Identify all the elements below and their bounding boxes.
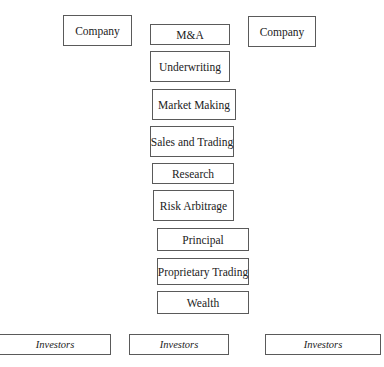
function-label-underwriting: Underwriting: [159, 61, 221, 73]
investors-box-center: Investors: [129, 334, 229, 355]
company-left-label: Company: [75, 25, 120, 37]
function-box-underwriting: Underwriting: [150, 51, 230, 82]
function-box-ma: M&A: [150, 24, 230, 45]
function-box-research: Research: [152, 163, 234, 184]
company-right-label: Company: [260, 26, 305, 38]
function-label-sales-and-trading: Sales and Trading: [151, 136, 233, 148]
function-box-principal: Principal: [157, 228, 249, 251]
function-label-ma: M&A: [176, 29, 203, 41]
function-box-risk-arbitrage: Risk Arbitrage: [153, 190, 234, 221]
function-box-market-making: Market Making: [152, 89, 236, 120]
function-label-principal: Principal: [182, 234, 224, 246]
investors-label-left: Investors: [36, 339, 75, 350]
company-right-box: Company: [248, 16, 316, 47]
function-label-market-making: Market Making: [158, 99, 230, 111]
function-label-risk-arbitrage: Risk Arbitrage: [160, 200, 227, 212]
function-box-wealth: Wealth: [157, 291, 249, 314]
investors-box-right: Investors: [265, 334, 381, 355]
function-label-research: Research: [172, 168, 214, 180]
function-label-proprietary-trading: Proprietary Trading: [158, 266, 248, 278]
investors-label-center: Investors: [160, 339, 199, 350]
function-box-proprietary-trading: Proprietary Trading: [157, 258, 249, 285]
function-box-sales-and-trading: Sales and Trading: [150, 126, 234, 157]
company-left-box: Company: [63, 15, 132, 46]
function-label-wealth: Wealth: [187, 297, 219, 309]
investors-label-right: Investors: [304, 339, 343, 350]
investors-box-left: Investors: [0, 334, 111, 355]
